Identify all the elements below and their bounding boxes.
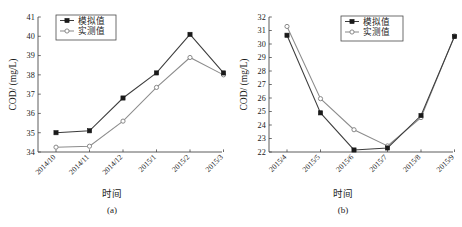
- chart-svg-panel-b: 22232425262728293031322015/42015/52015/6…: [231, 0, 462, 227]
- y-tick-label: 29: [258, 53, 266, 62]
- y-tick-label: 39: [27, 51, 35, 60]
- y-tick-label: 37: [27, 90, 35, 99]
- x-tick-label: 2015/5: [301, 152, 322, 173]
- data-point-simulated: [419, 113, 423, 117]
- y-tick-label: 23: [258, 134, 266, 143]
- x-tick-label: 2015/7: [368, 152, 389, 173]
- legend-label-measured: 实测值: [363, 26, 390, 37]
- legend-label-simulated: 模拟值: [78, 15, 105, 26]
- y-tick-label: 31: [258, 26, 266, 35]
- x-axis-title: 时间: [333, 188, 353, 199]
- data-point-measured: [54, 145, 58, 149]
- y-axis-title: COD/ (mg/L): [8, 59, 19, 111]
- data-point-measured: [318, 97, 322, 101]
- series-line-simulated: [56, 34, 224, 132]
- series-line-measured: [56, 58, 224, 148]
- x-tick-label: 2014/10: [33, 152, 57, 176]
- x-tick-label: 2015/2: [170, 152, 191, 173]
- legend-label-measured: 实测值: [78, 25, 105, 36]
- y-tick-label: 28: [258, 67, 266, 76]
- y-tick-label: 40: [27, 32, 35, 41]
- x-tick-label: 2014/11: [67, 152, 91, 176]
- y-axis-title: COD/ (mg/L): [239, 59, 250, 111]
- x-axis-title: 时间: [102, 188, 122, 199]
- chart-svg-panel-a: 34353637383940412014/102014/112014/12201…: [0, 0, 231, 227]
- legend-marker-simulated: [350, 19, 354, 23]
- y-tick-label: 27: [258, 80, 266, 89]
- y-tick-label: 24: [258, 121, 266, 130]
- legend: 模拟值实测值: [56, 15, 116, 40]
- x-tick-label: 2015/3: [204, 152, 225, 173]
- y-tick-label: 25: [258, 107, 266, 116]
- data-point-measured: [121, 119, 125, 123]
- data-point-simulated: [87, 129, 91, 133]
- chart-panel-b: 22232425262728293031322015/42015/52015/6…: [231, 0, 462, 227]
- data-point-measured: [352, 128, 356, 132]
- figure-container: 34353637383940412014/102014/112014/12201…: [0, 0, 462, 227]
- legend-marker-measured: [65, 29, 69, 33]
- data-point-measured: [188, 55, 192, 59]
- series-line-simulated: [287, 35, 455, 150]
- series-group: [285, 24, 457, 152]
- legend: 模拟值实测值: [341, 16, 403, 41]
- panel-caption: (a): [107, 205, 117, 215]
- y-tick-label: 38: [27, 71, 35, 80]
- data-point-simulated: [318, 111, 322, 115]
- x-tick-label: 2015/4: [267, 152, 288, 173]
- chart-panel-a: 34353637383940412014/102014/112014/12201…: [0, 0, 231, 227]
- data-point-simulated: [352, 148, 356, 152]
- data-point-measured: [285, 24, 289, 28]
- data-point-measured: [154, 85, 158, 89]
- y-tick-label: 35: [27, 129, 35, 138]
- y-tick-label: 26: [258, 94, 266, 103]
- data-point-simulated: [188, 32, 192, 36]
- series-group: [54, 32, 226, 149]
- panel-caption: (b): [338, 205, 349, 215]
- x-tick-label: 2015/1: [137, 152, 158, 173]
- y-tick-label: 32: [258, 13, 266, 22]
- x-tick-label: 2015/6: [334, 152, 355, 173]
- data-point-measured: [87, 144, 91, 148]
- legend-marker-measured: [350, 30, 354, 34]
- y-tick-label: 34: [27, 148, 35, 157]
- series-line-measured: [287, 26, 455, 145]
- data-point-simulated: [285, 33, 289, 37]
- y-tick-label: 22: [258, 148, 266, 157]
- data-point-simulated: [54, 131, 58, 135]
- data-point-simulated: [452, 34, 456, 38]
- y-tick-label: 30: [258, 40, 266, 49]
- y-tick-label: 41: [27, 13, 35, 22]
- data-point-simulated: [121, 96, 125, 100]
- data-point-simulated: [385, 146, 389, 150]
- x-tick-label: 2015/9: [435, 152, 456, 173]
- y-tick-label: 36: [27, 109, 35, 118]
- x-tick-label: 2015/8: [401, 152, 422, 173]
- data-point-simulated: [221, 71, 225, 75]
- data-point-simulated: [154, 71, 158, 75]
- legend-label-simulated: 模拟值: [363, 16, 390, 27]
- legend-marker-simulated: [65, 18, 69, 22]
- x-tick-label: 2014/12: [100, 152, 124, 176]
